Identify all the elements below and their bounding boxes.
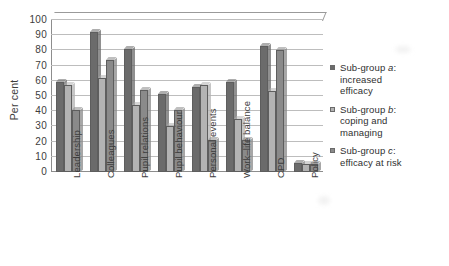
legend-item: Sub-group b:coping andmanaging — [330, 104, 448, 139]
bar — [192, 87, 200, 172]
y-axis-tick-label: 0 — [25, 167, 47, 177]
y-axis-tick-label: 80 — [25, 45, 47, 55]
x-axis-label: Pupil relations — [140, 117, 150, 178]
bar — [90, 32, 98, 172]
legend-label: Sub-group b:coping andmanaging — [340, 104, 396, 139]
legend-item: Sub-group a:increasedefficacy — [330, 62, 448, 97]
bar-face — [276, 50, 284, 172]
bar — [276, 50, 284, 172]
x-axis-label: CPD — [276, 158, 286, 178]
y-axis-tick-label: 70 — [25, 61, 47, 71]
y-axis-tick-label: 100 — [25, 15, 47, 25]
bar-side — [284, 48, 287, 172]
bar — [294, 163, 302, 172]
bar-group — [294, 20, 318, 172]
y-axis-tick-label: 30 — [25, 121, 47, 131]
y-axis-tick-label: 20 — [25, 137, 47, 147]
bar-face — [90, 32, 98, 172]
y-axis-tick-label: 10 — [25, 152, 47, 162]
y-axis-title: Per cent — [8, 0, 22, 60]
bar — [158, 94, 166, 172]
bar — [124, 49, 132, 172]
x-axis-label: Personal events — [208, 108, 218, 178]
x-axis-label: Colleagues — [106, 129, 116, 178]
x-axis-label: Policy — [310, 152, 320, 178]
legend-swatch-icon — [330, 107, 335, 112]
bar — [56, 82, 64, 172]
legend-label: Sub-group a:increasedefficacy — [340, 62, 396, 97]
plot-area — [51, 20, 323, 172]
legend-swatch-icon — [330, 65, 335, 70]
bar-face — [158, 94, 166, 172]
bar-groups — [51, 20, 323, 172]
bar-group — [260, 20, 284, 172]
bar-chart: Per cent 1009080706050403020100 Leadersh… — [0, 0, 449, 266]
bar — [226, 82, 234, 172]
x-axis-label: Leadership — [72, 130, 82, 178]
scan-artifact — [395, 46, 411, 53]
legend-label: Sub-group c:efficacy at risk — [340, 145, 402, 168]
scan-artifact — [318, 196, 330, 205]
y-axis-ticks: 1009080706050403020100 — [23, 0, 47, 266]
y-axis-title-text: Per cent — [8, 60, 20, 140]
bar-face — [294, 163, 302, 172]
x-axis-labels: LeadershipColleaguesPupil relationsPupil… — [51, 176, 323, 266]
x-axis-label: Pupil behaviour — [174, 111, 184, 178]
legend-item: Sub-group c:efficacy at risk — [330, 145, 448, 168]
y-axis-tick-label: 90 — [25, 30, 47, 40]
x-axis-label: Work–life balance — [242, 101, 252, 178]
y-axis-tick-label: 50 — [25, 91, 47, 101]
bar-face — [226, 82, 234, 172]
bar-face — [260, 46, 268, 172]
bar-face — [124, 49, 132, 172]
bar-face — [56, 82, 64, 172]
bar-face — [192, 87, 200, 172]
bar — [260, 46, 268, 172]
chart-legend: Sub-group a:increasedefficacySub-group b… — [330, 62, 448, 175]
legend-swatch-icon — [330, 148, 335, 153]
y-axis-tick-label: 40 — [25, 106, 47, 116]
y-axis-tick-label: 60 — [25, 76, 47, 86]
